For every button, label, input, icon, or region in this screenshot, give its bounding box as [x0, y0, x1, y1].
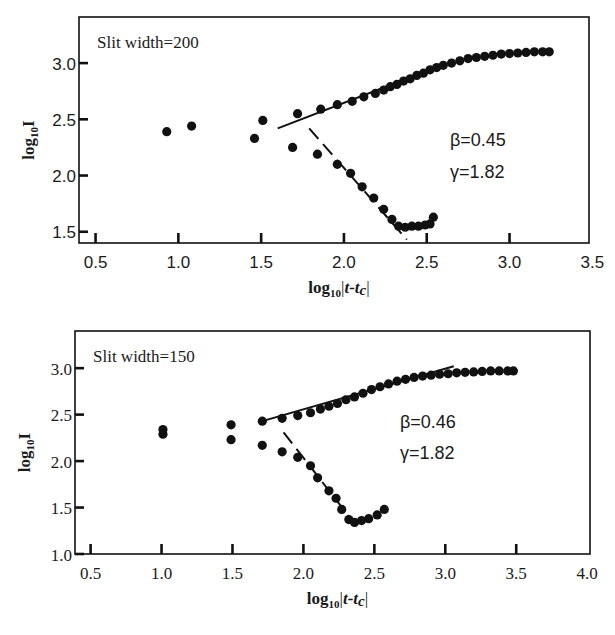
x-tick-label: 4.0 — [577, 564, 598, 583]
data-point — [439, 61, 448, 70]
data-point — [409, 373, 418, 382]
y-axis-title: log10I — [15, 432, 36, 472]
x-tick-label: 3.0 — [498, 253, 522, 272]
data-point — [464, 54, 473, 63]
data-point — [375, 382, 384, 391]
data-point — [250, 134, 259, 143]
data-point — [316, 404, 325, 413]
data-point — [545, 47, 554, 56]
x-tick-label: 3.5 — [506, 564, 527, 583]
data-point — [530, 47, 539, 56]
data-point — [293, 411, 302, 420]
data-point — [367, 385, 376, 394]
x-tick-label: 3.0 — [435, 564, 456, 583]
gamma-annotation: γ=1.82 — [400, 443, 455, 463]
data-point — [418, 371, 427, 380]
x-tick-label: 1.0 — [167, 253, 191, 272]
data-point — [324, 486, 333, 495]
data-point — [447, 58, 456, 67]
data-point — [333, 160, 342, 169]
data-point — [306, 461, 315, 470]
data-point — [392, 377, 401, 386]
data-series — [158, 420, 235, 444]
data-point — [158, 430, 167, 439]
data-point — [379, 205, 388, 214]
data-point — [486, 366, 495, 375]
data-point — [358, 389, 367, 398]
y-tick-label: 1.0 — [51, 546, 72, 565]
x-tick-label: 0.5 — [80, 564, 101, 583]
x-tick-label: 2.0 — [332, 253, 356, 272]
data-point — [472, 53, 481, 62]
y-axis-title: log10I — [19, 120, 40, 160]
data-point — [258, 116, 267, 125]
chart-panel-slit-width-200: 1.52.02.53.00.51.01.52.02.53.03.5log10|t… — [19, 17, 604, 299]
data-series — [162, 116, 267, 143]
data-point — [316, 105, 325, 114]
data-point — [337, 505, 346, 514]
data-point — [461, 368, 470, 377]
data-point — [226, 420, 235, 429]
beta-annotation: β=0.45 — [450, 130, 506, 150]
data-point — [333, 399, 342, 408]
data-point — [401, 375, 410, 384]
data-point — [380, 505, 389, 514]
data-point — [313, 473, 322, 482]
figure-canvas: 1.52.02.53.00.51.01.52.02.53.03.5log10|t… — [0, 0, 615, 635]
data-series — [258, 366, 518, 425]
y-tick-label: 2.5 — [51, 406, 72, 425]
data-point — [469, 367, 478, 376]
data-point — [495, 366, 504, 375]
data-point — [429, 213, 438, 222]
data-point — [341, 395, 350, 404]
data-point — [278, 447, 287, 456]
x-tick-label: 2.0 — [293, 564, 314, 583]
chart-panel-slit-width-150: 1.01.52.02.53.00.51.01.52.02.53.03.54.0l… — [15, 331, 598, 610]
data-point — [348, 97, 357, 106]
y-tick-label: 2.0 — [52, 167, 76, 186]
data-point — [258, 417, 267, 426]
y-tick-label: 2.0 — [51, 453, 72, 472]
data-point — [358, 182, 367, 191]
beta-annotation: β=0.46 — [400, 412, 456, 432]
y-tick-label: 3.0 — [52, 55, 76, 74]
data-point — [306, 408, 315, 417]
data-point — [258, 441, 267, 450]
data-point — [427, 371, 436, 380]
y-tick-label: 1.5 — [51, 499, 72, 518]
data-point — [478, 367, 487, 376]
x-axis-title: log10|t-tc| — [307, 589, 368, 610]
data-point — [187, 121, 196, 130]
data-point — [162, 127, 171, 136]
data-point — [288, 143, 297, 152]
data-point — [455, 56, 464, 65]
data-point — [369, 193, 378, 202]
data-point — [505, 49, 514, 58]
data-point — [278, 414, 287, 423]
figure: 1.52.02.53.00.51.01.52.02.53.03.5log10|t… — [0, 0, 615, 635]
data-point — [384, 379, 393, 388]
x-tick-label: 2.5 — [415, 253, 439, 272]
x-tick-label: 3.5 — [580, 253, 604, 272]
x-tick-label: 2.5 — [364, 564, 385, 583]
data-point — [293, 453, 302, 462]
x-tick-label: 1.0 — [151, 564, 172, 583]
data-point — [346, 169, 355, 178]
data-point — [444, 369, 453, 378]
x-tick-label: 1.5 — [249, 253, 273, 272]
data-point — [331, 494, 340, 503]
data-point — [521, 48, 530, 57]
y-tick-label: 3.0 — [51, 360, 72, 379]
x-tick-label: 1.5 — [222, 564, 243, 583]
data-point — [364, 514, 373, 523]
data-point — [452, 368, 461, 377]
gamma-annotation: γ=1.82 — [450, 162, 505, 182]
data-series — [288, 143, 438, 232]
data-point — [480, 52, 489, 61]
data-point — [488, 51, 497, 60]
x-tick-label: 0.5 — [84, 253, 108, 272]
data-point — [313, 150, 322, 159]
data-point — [513, 48, 522, 57]
data-point — [497, 50, 506, 59]
data-point — [226, 435, 235, 444]
